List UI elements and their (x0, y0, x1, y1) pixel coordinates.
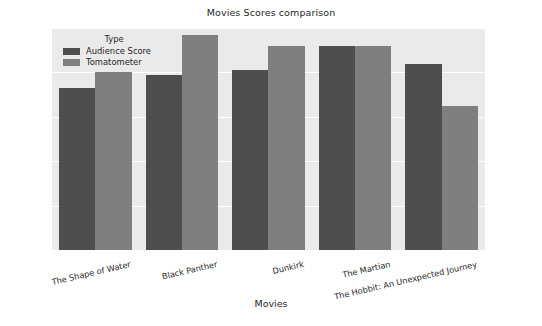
bar[interactable] (232, 70, 268, 250)
bar[interactable] (442, 106, 478, 250)
bar[interactable] (268, 46, 304, 250)
bar[interactable] (146, 75, 182, 250)
bar[interactable] (405, 64, 441, 250)
bar-pair (232, 28, 305, 250)
legend-title: Type (77, 34, 151, 44)
legend-label: Tomatometer (86, 57, 142, 67)
bar[interactable] (319, 46, 355, 250)
legend-item-audience-score[interactable]: Audience Score (63, 46, 151, 56)
bar-group (225, 28, 312, 250)
bar[interactable] (59, 88, 95, 250)
bar[interactable] (95, 72, 131, 250)
x-axis-label: Movies (0, 298, 542, 309)
chart-figure: Movies Scores comparison Scores 02040608… (0, 0, 542, 326)
legend-entries: Audience ScoreTomatometer (63, 46, 151, 67)
bar-pair (405, 28, 478, 250)
legend-label: Audience Score (86, 46, 151, 56)
bar-pair (319, 28, 392, 250)
bar-group (398, 28, 485, 250)
legend-swatch-icon (63, 48, 80, 55)
legend: Type Audience ScoreTomatometer (57, 30, 159, 72)
legend-item-tomatometer[interactable]: Tomatometer (63, 57, 151, 67)
legend-swatch-icon (63, 59, 80, 66)
bar-group (312, 28, 399, 250)
bar[interactable] (355, 46, 391, 250)
bar[interactable] (182, 35, 218, 250)
chart-title: Movies Scores comparison (0, 7, 542, 18)
